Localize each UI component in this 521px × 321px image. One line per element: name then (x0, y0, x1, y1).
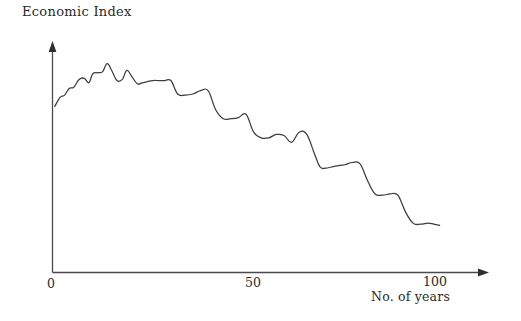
economic-index-curve (55, 64, 440, 226)
y-axis-title: Economic Index (22, 4, 132, 19)
x-tick-label-0: 0 (47, 276, 55, 291)
x-axis-title: No. of years (371, 289, 450, 304)
economic-index-chart: Economic Index 0 50 100 No. of years (0, 0, 521, 321)
x-axis-arrow-icon (478, 268, 489, 276)
x-tick-label-100: 100 (423, 274, 447, 289)
y-axis-arrow-icon (49, 41, 57, 52)
x-tick-label-50: 50 (245, 275, 261, 290)
chart-canvas (0, 0, 521, 321)
y-axis (49, 41, 57, 273)
